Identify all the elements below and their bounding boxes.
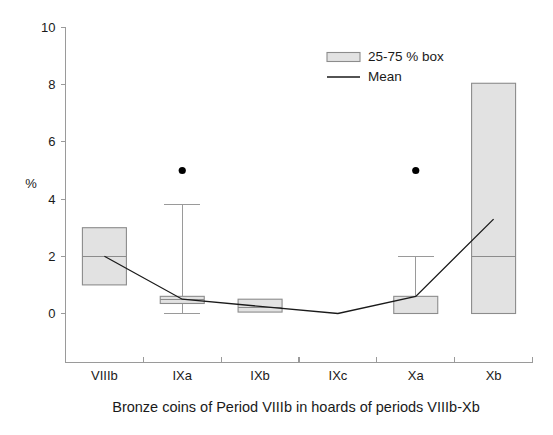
x-tick-label-viiib: VIIIb: [91, 368, 118, 383]
y-tick-label: 10: [41, 20, 55, 35]
box-rect: [472, 83, 516, 313]
outlier-point: [412, 167, 419, 174]
box-ixb: [238, 299, 282, 312]
box-xa: [394, 256, 438, 313]
box-rect: [160, 296, 204, 303]
box-rect: [238, 299, 282, 312]
legend-label-box: 25-75 % box: [368, 49, 444, 64]
box-ixa: [160, 205, 204, 314]
y-tick-label: 8: [48, 77, 55, 92]
chart-legend: 25-75 % boxMean: [327, 49, 444, 84]
box-xb: [472, 83, 516, 313]
y-tick-label: 4: [48, 192, 55, 207]
x-tick-label-ixa: IXa: [172, 368, 192, 383]
y-tick-label: 0: [48, 306, 55, 321]
legend-label-mean: Mean: [368, 69, 402, 84]
x-tick-label-xa: Xa: [408, 368, 425, 383]
x-tick-label-xb: Xb: [486, 368, 502, 383]
y-tick-label: 6: [48, 134, 55, 149]
x-tick-label-ixb: IXb: [250, 368, 270, 383]
y-tick-label: 2: [48, 249, 55, 264]
plot-canvas: 0246810 VIIIbIXaIXbIXcXaXb 25-75 % boxMe…: [0, 0, 553, 435]
outlier-point: [179, 167, 186, 174]
box-plot-series: [82, 83, 515, 313]
x-tick-label-ixc: IXc: [329, 368, 348, 383]
outlier-points: [179, 167, 420, 174]
x-axis: VIIIbIXaIXbIXcXaXb: [66, 357, 533, 383]
y-axis: 0246810: [41, 20, 65, 363]
chart-caption: Bronze coins of Period VIIIb in hoards o…: [112, 399, 480, 415]
box-rect: [394, 296, 438, 313]
y-axis-label: %: [25, 176, 37, 191]
boxplot-chart: 0246810 VIIIbIXaIXbIXcXaXb 25-75 % boxMe…: [0, 0, 553, 435]
legend-swatch-box: [327, 53, 360, 62]
